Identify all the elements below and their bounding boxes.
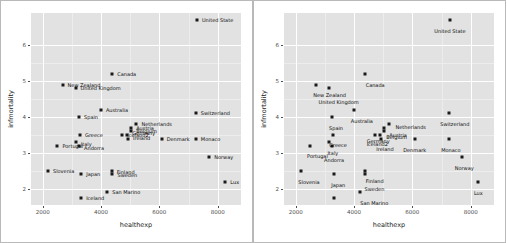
x-tick-mark [218,206,219,208]
data-point [121,134,124,137]
y-tick-mark [28,117,30,118]
x-tick-label: 8000 [211,209,225,215]
data-point [447,137,450,140]
gridline-minor-horizontal [284,63,494,64]
point-label: Lux [474,190,483,196]
point-label: Greece [85,132,103,138]
point-label: Greece [329,142,347,148]
x-tick-mark [471,206,472,208]
x-tick-label: 2000 [36,209,50,215]
x-tick-label: 2000 [289,209,303,215]
point-label: Sweden [365,186,385,192]
x-tick-label: 4000 [94,209,108,215]
x-tick-mark [159,206,160,208]
data-point [80,196,83,199]
point-label: Monaco [441,147,460,153]
data-point [477,180,480,183]
data-point [364,173,367,176]
point-label: Australia [351,118,373,124]
data-point [359,191,362,194]
y-tick-label: 6 [276,42,280,48]
gridline-minor-vertical [72,13,73,205]
gridline-minor-horizontal [31,63,241,64]
y-tick-label: 6 [23,42,27,48]
gridline-minor-horizontal [284,171,494,172]
data-point [111,73,114,76]
point-label: Sweden [117,172,137,178]
point-label: Slovenia [53,168,74,174]
y-tick-label: 2 [276,186,280,192]
x-tick-label: 4000 [347,209,361,215]
point-label: Japan [331,182,345,188]
point-label: Italy [327,150,338,156]
data-point [300,169,303,172]
point-label: Andorra [84,145,104,151]
data-point [194,137,197,140]
point-label: Monaco [201,136,220,142]
data-point [110,169,113,172]
left-panel: United StateCanadaNew ZealandUnited King… [0,0,253,243]
point-label: San Marino [112,189,140,195]
right-panel: United StateCanadaNew ZealandUnited King… [253,0,506,243]
data-point [383,130,386,133]
point-label: Iceland [86,195,104,201]
gridline-minor-vertical [383,13,384,205]
x-tick-mark [101,206,102,208]
y-tick-label: 3 [23,150,27,156]
data-point [332,134,335,137]
point-label: Canada [117,71,136,77]
gridline-major-horizontal [284,117,494,118]
point-label: Japan [86,171,100,177]
data-point [224,180,227,183]
gridline-minor-vertical [442,13,443,205]
data-point [194,112,197,115]
data-point [61,83,64,86]
gridline-major-vertical [43,13,44,205]
data-point [208,155,211,158]
data-point [413,137,416,140]
x-tick-label: 6000 [152,209,166,215]
data-point [352,108,355,111]
data-point [388,123,391,126]
gridline-major-vertical [296,13,297,205]
data-point [309,144,312,147]
data-point [448,19,451,22]
y-tick-mark [28,153,30,154]
data-point [461,155,464,158]
y-tick-mark [281,189,283,190]
data-point [383,126,386,129]
gridline-major-horizontal [31,81,241,82]
data-point [130,126,133,129]
data-point [106,191,109,194]
gridline-major-horizontal [31,117,241,118]
y-tick-mark [281,81,283,82]
gridline-major-vertical [412,13,413,205]
data-point [79,134,82,137]
data-point [447,112,450,115]
point-label: Slovenia [298,179,319,185]
point-label: Netherlands [395,124,425,130]
y-tick-label: 5 [23,78,27,84]
point-label: New Zealand [313,92,346,98]
x-tick-mark [43,206,44,208]
gridline-major-vertical [471,13,472,205]
data-point [314,83,317,86]
gridline-minor-vertical [325,13,326,205]
y-tick-mark [28,81,30,82]
x-tick-label: 8000 [464,209,478,215]
data-point [56,144,59,147]
data-point [333,173,336,176]
point-label: Denmark [167,136,190,142]
data-point [160,137,163,140]
data-point [111,173,114,176]
gridline-major-vertical [159,13,160,205]
gridline-major-horizontal [284,189,494,190]
point-label: Canada [366,82,385,88]
y-tick-label: 3 [276,150,280,156]
x-axis-title: healthexp [120,221,152,229]
y-tick-label: 2 [23,186,27,192]
point-label: Andorra [324,157,344,163]
point-label: Switzerland [440,121,469,127]
y-tick-mark [281,153,283,154]
point-label: United State [434,28,465,34]
